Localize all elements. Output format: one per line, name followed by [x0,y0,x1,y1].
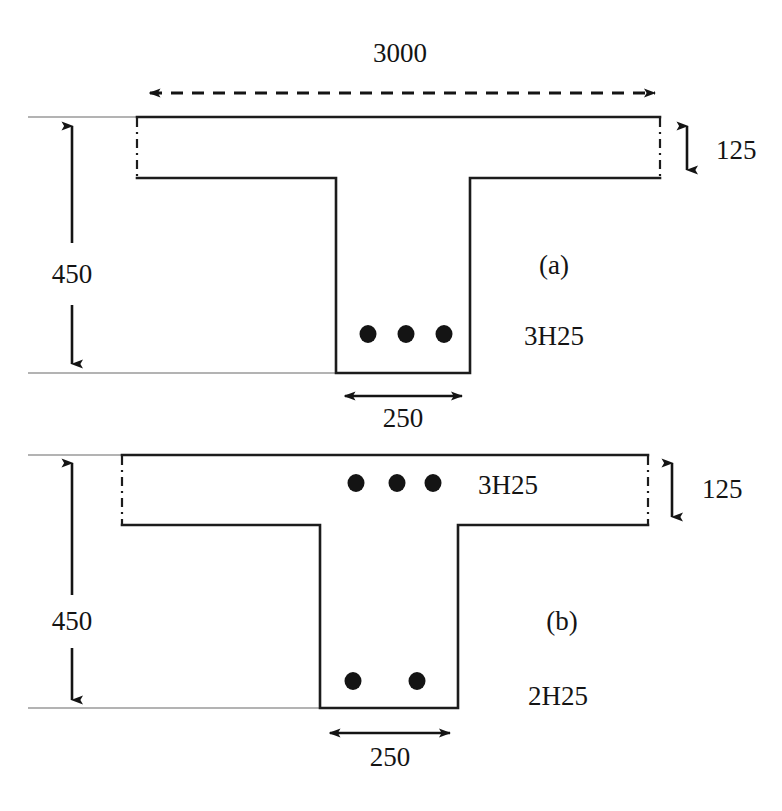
rebar-dot [348,474,365,492]
beam-outline-b [122,455,648,708]
label-b-rebar-flange: 3H25 [478,470,538,500]
label-a-web-width: 250 [383,403,424,433]
label-b-overall-depth: 450 [52,606,93,636]
rebar-dot [345,672,362,690]
label-part-a: (a) [539,250,569,280]
rebar-dot [389,474,406,492]
label-b-rebar-web: 2H25 [528,681,588,711]
rebar-dot [398,325,415,343]
panel-b: 3H25 125 450 (b) 2H25 250 [28,455,743,772]
tbeam-figure-svg: 3000 125 450 250 (a) 3H25 [0,0,782,811]
label-a-flange-depth: 125 [716,135,757,165]
rebar-dot [436,325,453,343]
label-a-rebar-web: 3H25 [524,321,584,351]
label-a-flange-width: 3000 [373,38,427,68]
rebar-dot [425,474,442,492]
figure-root: 3000 125 450 250 (a) 3H25 [0,0,782,811]
rebar-dot [409,672,426,690]
panel-a: 3000 125 450 250 (a) 3H25 [28,38,757,433]
label-part-b: (b) [546,606,577,636]
label-b-flange-depth: 125 [702,474,743,504]
rebar-dot [360,325,377,343]
label-a-overall-depth: 450 [52,259,93,289]
label-b-web-width: 250 [370,742,411,772]
